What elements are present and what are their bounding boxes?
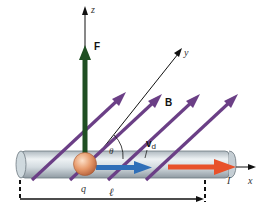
z-axis-label: z	[90, 4, 95, 15]
force-arrowhead-icon	[79, 45, 91, 60]
wire-end-cap	[16, 151, 26, 178]
field-label: B	[165, 97, 172, 108]
x-axis	[236, 164, 256, 170]
z-axis	[82, 6, 88, 50]
charge-sphere	[74, 153, 97, 176]
force-arrow	[79, 45, 91, 158]
charge-label: q	[81, 183, 86, 194]
length-arrowhead-icon	[196, 196, 204, 202]
x-axis-arrowhead-icon	[248, 164, 256, 170]
length-label: ℓ	[109, 186, 114, 198]
x-axis-label: x	[247, 175, 253, 186]
z-axis-arrowhead-icon	[82, 6, 88, 15]
y-axis-label: y	[183, 47, 189, 58]
current-label: I	[226, 175, 231, 186]
magnetic-force-diagram: z y B F θ	[0, 0, 273, 213]
angle-label: θ	[109, 146, 114, 156]
velocity-label: vd	[146, 138, 156, 151]
force-label: F	[94, 41, 100, 52]
y-axis-arrowhead-icon	[174, 48, 182, 57]
